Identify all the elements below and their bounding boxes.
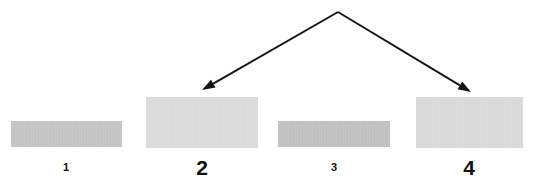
- arrowhead-left-icon: [202, 80, 216, 90]
- arrow-left-shaft: [213, 12, 338, 84]
- band-4: [416, 97, 523, 148]
- band-label-4: 4: [439, 157, 499, 178]
- band-4-fill: [416, 97, 523, 148]
- band-3: [278, 121, 390, 147]
- band-2-fill: [146, 97, 258, 148]
- band-1-fill: [11, 121, 122, 147]
- band-3-fill: [278, 121, 390, 147]
- arrow-right-shaft: [338, 12, 460, 85]
- figure-root: 1 2 3 4: [0, 0, 541, 186]
- band-2: [146, 97, 258, 148]
- band-label-3: 3: [304, 162, 364, 173]
- band-label-2: 2: [172, 157, 232, 178]
- band-1: [11, 121, 122, 147]
- band-label-1: 1: [36, 162, 96, 173]
- arrowhead-right-icon: [458, 81, 471, 92]
